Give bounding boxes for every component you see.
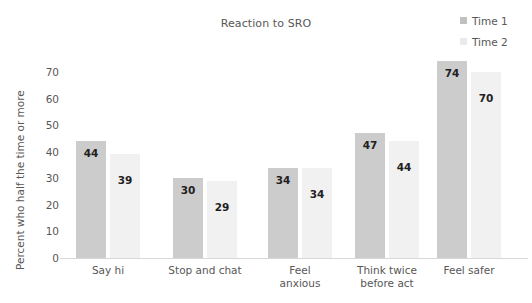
bar[interactable]	[437, 61, 467, 258]
chart-title: Reaction to SRO	[0, 17, 532, 30]
bar[interactable]	[302, 168, 332, 258]
y-tick-label: 0	[33, 253, 59, 263]
bar-value-label: 34	[302, 188, 332, 200]
x-axis-category-label: Feelanxious	[250, 264, 350, 290]
y-tick-label: 40	[33, 147, 59, 157]
bar[interactable]	[355, 133, 385, 258]
x-axis-category-line: Say hi	[58, 264, 158, 277]
y-tick-label: 20	[33, 200, 59, 210]
x-axis-category-label: Stop and chat	[155, 264, 255, 277]
legend-item-time-1[interactable]: Time 1	[460, 10, 526, 31]
bar-value-label: 39	[110, 174, 140, 186]
y-tick-label: 30	[33, 173, 59, 183]
legend-item-time-2[interactable]: Time 2	[460, 31, 526, 52]
x-axis-line	[60, 258, 528, 259]
y-tick-label: 50	[33, 120, 59, 130]
legend-label: Time 1	[472, 15, 508, 27]
bar[interactable]	[389, 141, 419, 258]
bar-chart: Reaction to SRO Time 1 Time 2 Percent wh…	[0, 0, 532, 303]
x-axis-category-label: Say hi	[58, 264, 158, 277]
legend-label: Time 2	[472, 36, 508, 48]
x-axis-category-line: Stop and chat	[155, 264, 255, 277]
bar-value-label: 30	[173, 184, 203, 196]
bar-value-label: 70	[471, 92, 501, 104]
bar[interactable]	[110, 154, 140, 258]
x-axis-category-label: Feel safer	[419, 264, 519, 277]
legend-swatch-icon	[460, 17, 467, 24]
bar[interactable]	[207, 181, 237, 258]
y-axis-title-text: Percent who half the time or more	[14, 70, 26, 270]
bar-value-label: 34	[268, 174, 298, 186]
y-axis-title: Percent who half the time or more	[14, 0, 28, 74]
y-tick-label: 60	[33, 94, 59, 104]
y-tick-label: 70	[33, 67, 59, 77]
x-axis-category-line: anxious	[250, 277, 350, 290]
bar-value-label: 74	[437, 67, 467, 79]
bar-value-label: 44	[76, 147, 106, 159]
x-axis-category-line: Feel safer	[419, 264, 519, 277]
x-axis-category-line: before act	[337, 277, 437, 290]
bar-value-label: 29	[207, 201, 237, 213]
legend-swatch-icon	[460, 38, 467, 45]
bar-value-label: 47	[355, 139, 385, 151]
y-tick-label: 10	[33, 226, 59, 236]
bar-value-label: 44	[389, 161, 419, 173]
x-axis-category-line: Feel	[250, 264, 350, 277]
chart-legend: Time 1 Time 2	[460, 10, 526, 52]
